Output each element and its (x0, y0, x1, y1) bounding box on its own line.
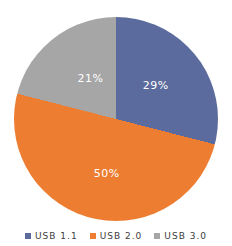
legend-item-usb-1-1: USB 1.1 (25, 231, 78, 241)
slice-label-usb-3-0: 21% (78, 72, 104, 85)
legend-label: USB 1.1 (35, 231, 78, 241)
legend-label: USB 3.0 (164, 231, 207, 241)
slice-label-usb-2-0: 50% (94, 167, 120, 180)
legend-label: USB 2.0 (100, 231, 143, 241)
pie-chart: 29% 50% 21% USB 1.1 USB 2.0 USB 3.0 (0, 0, 232, 246)
pie: 29% 50% 21% (14, 17, 218, 221)
legend-swatch-icon (154, 233, 160, 239)
legend-item-usb-2-0: USB 2.0 (90, 231, 143, 241)
legend-swatch-icon (25, 233, 31, 239)
legend-swatch-icon (90, 233, 96, 239)
legend: USB 1.1 USB 2.0 USB 3.0 (0, 229, 232, 243)
legend-item-usb-3-0: USB 3.0 (154, 231, 207, 241)
slice-label-usb-1-1: 29% (143, 79, 169, 92)
